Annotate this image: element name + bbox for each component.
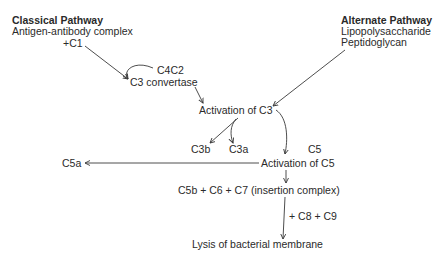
c5a-label: C5a: [62, 157, 81, 169]
arrow-c3-convertase-to-activation-c3: [195, 87, 203, 103]
c3a-label: C3a: [229, 143, 248, 155]
lysis-label: Lysis of bacterial membrane: [192, 238, 323, 250]
activation-c5-label: Activation of C5: [261, 157, 335, 169]
arrow-peptidoglycan-to-activation-c3: [273, 50, 345, 106]
c5-label: C5: [308, 143, 321, 155]
activation-c3-label: Activation of C3: [199, 104, 273, 116]
arrow-insertion-complex-to-lysis: [283, 197, 285, 239]
classical-trigger-label: Antigen-antibody complex: [12, 25, 133, 37]
c4c2-label: C4C2: [157, 64, 184, 76]
c3b-label: C3b: [191, 143, 210, 155]
arrow-c1-to-c3-convertase: [85, 46, 128, 79]
c3-convertase-label: C3 convertase: [130, 76, 198, 88]
insertion-complex-label: C5b + C6 + C7 (insertion complex): [178, 184, 340, 196]
arrow-activation-c3-to-c3a: [231, 119, 236, 143]
plus-c8-c9-label: + C8 + C9: [289, 210, 337, 222]
plus-c1-label: +C1: [63, 37, 83, 49]
arrow-activation-c3-to-activation-c5: [276, 110, 287, 154]
peptidoglycan-label: Peptidoglycan: [341, 36, 407, 48]
